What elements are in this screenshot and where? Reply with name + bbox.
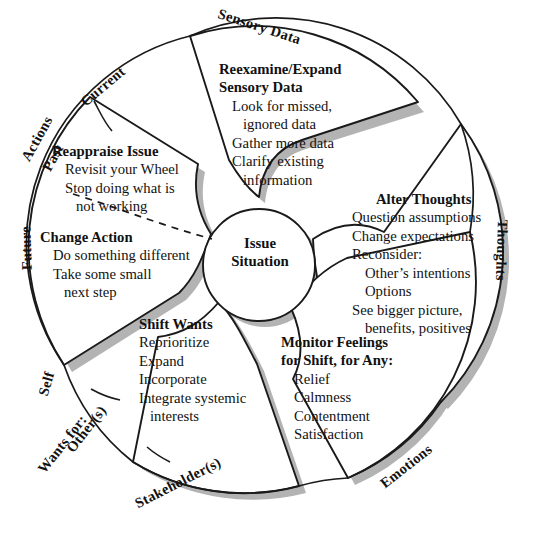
item-line: Take some small [40, 265, 190, 283]
item-line: Calmness [281, 388, 393, 406]
heading-line: for Shift, for Any: [281, 351, 393, 369]
item-line: Expand [126, 352, 246, 370]
ring-label-self: Self [35, 370, 57, 398]
item-line: Question assumptions [352, 208, 481, 226]
item-line: Do something different [40, 246, 190, 264]
heading-line: Change Action [40, 228, 190, 246]
hub-label-line1: Issue [205, 234, 315, 252]
hub-label-line2: Situation [205, 252, 315, 270]
item-line: Look for missed, [219, 97, 341, 115]
heading-line: Shift Wants [126, 315, 246, 333]
ring-label-future: Future [17, 226, 35, 271]
item-line: Reconsider: [352, 245, 481, 263]
item-line: Clarify existing [219, 152, 341, 170]
item-line: Satisfaction [281, 425, 393, 443]
item-line: Stop doing what is [52, 179, 179, 197]
petal-text-shift-wants: Shift Wants Reprioritize Expand Incorpor… [126, 315, 246, 426]
heading-line: Sensory Data [219, 78, 341, 96]
heading-line: Alter Thoughts [352, 190, 481, 208]
item-line: ignored data [219, 115, 341, 133]
heading-line: Monitor Feelings [281, 333, 393, 351]
item-line: Change expectations [352, 227, 481, 245]
heading-line: Reexamine/Expand [219, 60, 341, 78]
item-line: See bigger picture, [352, 301, 481, 319]
tick-self-others [91, 389, 120, 400]
ring-label-thoughts: Thoughts [493, 219, 511, 281]
item-line: Incorporate [126, 370, 246, 388]
item-line: Gather more data [219, 134, 341, 152]
item-line: Revisit your Wheel [52, 160, 179, 178]
item-line: Contentment [281, 407, 393, 425]
item-line: Relief [281, 370, 393, 388]
item-line: Other’s intentions [352, 264, 481, 282]
rim-arc-bottom [299, 478, 348, 486]
petal-text-alter-thoughts: Alter Thoughts Question assumptions Chan… [352, 190, 481, 338]
petal-text-reappraise-issue: Reappraise Issue Revisit your Wheel Stop… [52, 142, 179, 216]
center-hub-label: Issue Situation [205, 234, 315, 270]
item-line: Reprioritize [126, 333, 246, 351]
item-line: information [219, 171, 341, 189]
item-line: Integrate systemic [126, 389, 246, 407]
heading-line: Reappraise Issue [52, 142, 179, 160]
item-line: Options [352, 282, 481, 300]
item-line: next step [40, 283, 190, 301]
wheel-diagram: Sensory Data Thoughts Emotions Stakehold… [0, 0, 535, 536]
petal-text-change-action: Change Action Do something different Tak… [40, 228, 190, 302]
item-line: interests [126, 407, 246, 425]
item-line: not working [52, 197, 179, 215]
petal-text-monitor-feelings: Monitor Feelings for Shift, for Any: Rel… [281, 333, 393, 444]
petal-text-reexamine-expand-sensory-data: Reexamine/Expand Sensory Data Look for m… [219, 60, 341, 189]
